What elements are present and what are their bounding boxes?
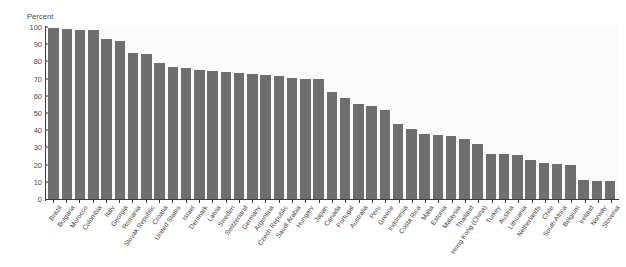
x-tick-mark [239, 200, 240, 203]
y-tick-label: 70 [34, 74, 42, 83]
y-tick-mark [45, 95, 48, 96]
bar [287, 78, 298, 199]
x-tick-mark [452, 200, 453, 203]
bar [499, 154, 510, 199]
bar [512, 155, 523, 199]
y-tick-mark [45, 78, 48, 79]
x-tick-mark [558, 200, 559, 203]
plot-area [46, 27, 618, 199]
bar [380, 110, 391, 199]
x-tick-mark [305, 200, 306, 203]
bar [419, 134, 430, 199]
bar [154, 63, 165, 199]
y-tick-label: 30 [34, 143, 42, 152]
y-tick-mark [45, 164, 48, 165]
x-tick-mark [226, 200, 227, 203]
y-tick-label: 80 [34, 57, 42, 66]
bar [539, 163, 550, 199]
bar [234, 73, 245, 199]
bar-chart: Percent 0102030405060708090100 BrazilBul… [0, 0, 626, 267]
x-tick-mark [399, 200, 400, 203]
x-tick-mark [172, 200, 173, 203]
x-tick-mark [265, 200, 266, 203]
x-tick-mark [186, 200, 187, 203]
bar [88, 30, 99, 199]
bar [75, 30, 86, 199]
bar [168, 67, 179, 199]
y-tick-label: 10 [34, 177, 42, 186]
bar [340, 98, 351, 199]
bar [565, 165, 576, 199]
y-tick-mark [45, 44, 48, 45]
x-tick-mark [119, 200, 120, 203]
y-tick-label: 100 [29, 23, 42, 32]
bar [433, 135, 444, 200]
x-tick-mark [332, 200, 333, 203]
bar [313, 79, 324, 199]
bar [62, 29, 73, 199]
y-tick-label: 20 [34, 160, 42, 169]
x-tick-mark [212, 200, 213, 203]
bar [578, 180, 589, 199]
bar [115, 41, 126, 199]
x-tick-mark [412, 200, 413, 203]
y-tick-mark [45, 27, 48, 28]
x-tick-mark [611, 200, 612, 203]
x-tick-mark [465, 200, 466, 203]
bar [48, 28, 59, 199]
x-tick-mark [93, 200, 94, 203]
x-tick-mark [385, 200, 386, 203]
bar [486, 154, 497, 199]
x-tick-mark [532, 200, 533, 203]
plot-frame [46, 27, 618, 199]
bar [605, 181, 616, 199]
x-tick-mark [359, 200, 360, 203]
bar [247, 74, 258, 199]
bar [406, 129, 417, 199]
bar [101, 39, 112, 199]
x-tick-mark [545, 200, 546, 203]
bar [525, 160, 536, 199]
y-tick-label: 90 [34, 40, 42, 49]
x-tick-mark [319, 200, 320, 203]
x-tick-mark [598, 200, 599, 203]
x-tick-mark [425, 200, 426, 203]
x-tick-mark [478, 200, 479, 203]
bar [181, 68, 192, 199]
bar [366, 106, 377, 199]
x-tick-mark [438, 200, 439, 203]
bar [128, 53, 139, 199]
x-tick-mark [372, 200, 373, 203]
x-tick-mark [518, 200, 519, 203]
y-axis-line [45, 26, 46, 201]
x-tick-mark [199, 200, 200, 203]
y-tick-mark [45, 130, 48, 131]
x-tick-mark [292, 200, 293, 203]
y-tick-label: 0 [38, 195, 42, 204]
x-tick-mark [66, 200, 67, 203]
bar [446, 136, 457, 199]
bar [592, 181, 603, 199]
bar [300, 79, 311, 199]
x-tick-mark [279, 200, 280, 203]
x-tick-mark [106, 200, 107, 203]
bar [393, 124, 404, 199]
x-tick-mark [252, 200, 253, 203]
y-tick-mark [45, 147, 48, 148]
y-tick-mark [45, 61, 48, 62]
bar [472, 144, 483, 199]
y-tick-mark [45, 181, 48, 182]
bar [221, 72, 232, 199]
x-tick-mark [79, 200, 80, 203]
y-tick-mark [45, 113, 48, 114]
x-axis-labels: BrazilBulgariaMoroccoColombiaItalyGeorgi… [46, 204, 618, 266]
bar [274, 76, 285, 199]
bar [260, 75, 271, 199]
bar [353, 104, 364, 199]
y-tick-label: 60 [34, 91, 42, 100]
bar [207, 71, 218, 199]
x-tick-mark [505, 200, 506, 203]
bar [459, 139, 470, 199]
x-tick-mark [585, 200, 586, 203]
y-tick-label: 50 [34, 109, 42, 118]
